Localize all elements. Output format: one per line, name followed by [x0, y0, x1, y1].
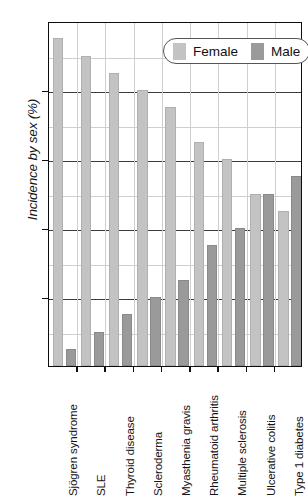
legend: Female Male: [163, 38, 308, 64]
category-separator-2: [105, 23, 106, 366]
bar-female-6: [222, 159, 233, 366]
x-tick-label-6: Multiple sclerosis: [236, 410, 248, 496]
bar-male-8: [291, 176, 302, 366]
x-axis-tick-group: Sjögren syndromeSLEThyroid diseaseSclero…: [48, 367, 302, 504]
bar-male-4: [178, 280, 189, 366]
x-tick-label-5: Rheumatoid arthritis: [208, 395, 220, 496]
x-tick-mark-1: [76, 367, 77, 372]
category-separator-4: [162, 23, 163, 366]
bar-male-7: [263, 194, 274, 367]
bar-male-0: [66, 349, 77, 366]
x-tick-label-2: Thyroid disease: [124, 416, 136, 496]
bar-female-0: [53, 38, 64, 366]
category-separator-3: [134, 23, 135, 366]
bar-female-2: [109, 73, 120, 366]
x-tick-label-7: Ulcerative colitis: [265, 415, 277, 496]
category-separator-7: [247, 23, 248, 366]
x-tick-label-1: SLE: [95, 475, 107, 496]
x-tick-mark-4: [161, 367, 162, 372]
category-separator-8: [275, 23, 276, 366]
category-separator-1: [77, 23, 78, 366]
x-tick-mark-7: [246, 367, 247, 372]
bar-male-2: [122, 314, 133, 366]
x-tick-label-0: Sjögren syndrome: [67, 404, 79, 496]
bar-female-8: [278, 211, 289, 366]
y-axis-title: Incidence by sex (%): [25, 60, 40, 260]
bar-male-6: [235, 228, 246, 366]
bar-male-3: [150, 297, 161, 366]
bar-female-4: [165, 107, 176, 366]
legend-swatch-male: [251, 43, 264, 60]
x-tick-label-4: Myasthenia gravis: [180, 405, 192, 496]
bar-female-3: [137, 90, 148, 366]
legend-label-female: Female: [193, 44, 238, 59]
x-tick-label-8: Type 1 diabetes: [293, 416, 305, 496]
bar-male-5: [207, 245, 218, 366]
bar-female-1: [81, 56, 92, 367]
plot-area: [48, 22, 302, 367]
bar-female-5: [194, 142, 205, 366]
category-separator-6: [218, 23, 219, 366]
x-tick-mark-5: [189, 367, 190, 372]
bar-male-1: [94, 332, 105, 367]
x-tick-mark-8: [274, 367, 275, 372]
legend-label-male: Male: [271, 44, 300, 59]
x-tick-label-3: Scleroderma: [152, 432, 164, 496]
x-tick-mark-6: [217, 367, 218, 372]
incidence-by-sex-bar-chart: Incidence by sex (%) 020406080100 Sjögre…: [0, 0, 308, 504]
category-separator-5: [190, 23, 191, 366]
bar-female-7: [250, 194, 261, 367]
legend-swatch-female: [173, 43, 186, 60]
x-tick-mark-2: [104, 367, 105, 372]
x-tick-mark-3: [133, 367, 134, 372]
